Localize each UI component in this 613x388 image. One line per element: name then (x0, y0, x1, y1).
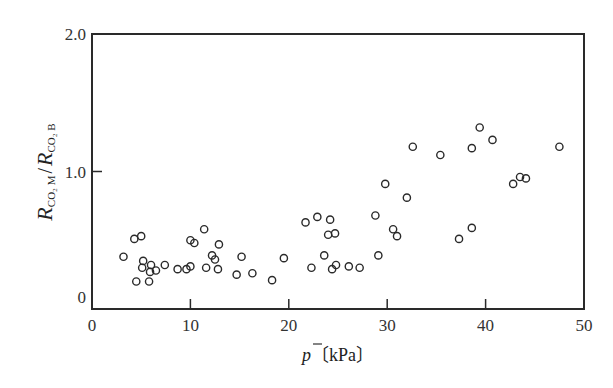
y-title-sub2: CO₂ B (45, 123, 57, 152)
x-tick-label: 10 (182, 316, 199, 335)
data-point (201, 226, 208, 233)
data-point (268, 277, 275, 284)
x-axis-ticks: 01020304050 (88, 299, 593, 335)
data-point (131, 235, 138, 242)
data-points (120, 124, 563, 285)
y-title-r1: R (32, 207, 57, 222)
y-axis-ticks: 01.02.0 (65, 25, 102, 307)
data-point (321, 252, 328, 259)
x-tick-label: 20 (280, 316, 297, 335)
y-title-slash: / (34, 168, 56, 174)
data-point (382, 180, 389, 187)
data-point (437, 151, 444, 158)
data-point (174, 266, 181, 273)
data-point (145, 278, 152, 285)
data-point (325, 231, 332, 238)
data-point (302, 219, 309, 226)
y-title-sub1: CO₂ M (45, 175, 57, 207)
data-point (327, 216, 334, 223)
data-point (161, 261, 168, 268)
y-tick-label: 0 (78, 288, 87, 307)
data-point (280, 255, 287, 262)
y-tick-label: 1.0 (65, 163, 86, 182)
data-point (138, 233, 145, 240)
data-point (120, 253, 127, 260)
data-point (409, 143, 416, 150)
data-point (356, 264, 363, 271)
data-point (556, 143, 563, 150)
x-tick-label: 0 (88, 316, 97, 335)
data-point (468, 224, 475, 231)
x-axis-symbol: p (300, 345, 311, 365)
y-title-r2: R (32, 152, 57, 167)
data-point (214, 266, 221, 273)
y-tick-label: 2.0 (65, 25, 86, 44)
data-point (133, 278, 140, 285)
data-point (139, 264, 146, 271)
svg-text:RCO₂ M/RCO₂ B: RCO₂ M/RCO₂ B (32, 123, 57, 221)
data-point (489, 136, 496, 143)
x-tick-label: 30 (379, 316, 396, 335)
data-point (510, 180, 517, 187)
x-tick-label: 50 (576, 316, 593, 335)
y-axis-title: RCO₂ M/RCO₂ B (32, 123, 57, 221)
data-point (403, 194, 410, 201)
data-point (308, 264, 315, 271)
x-axis-unit: 〔kPa〕 (311, 345, 374, 365)
data-point (390, 226, 397, 233)
data-point (455, 235, 462, 242)
data-point (203, 264, 210, 271)
x-axis-title: p〔kPa〕 (300, 345, 374, 365)
data-point (372, 212, 379, 219)
data-point (476, 124, 483, 131)
data-point (314, 213, 321, 220)
x-tick-label: 40 (477, 316, 494, 335)
data-point (468, 145, 475, 152)
data-point (215, 241, 222, 248)
data-point (238, 253, 245, 260)
data-point (375, 252, 382, 259)
data-point (345, 263, 352, 270)
data-point (233, 271, 240, 278)
scatter-chart: 01020304050 01.02.0 p〔kPa〕 RCO₂ M/RCO₂ B (0, 0, 613, 388)
data-point (393, 233, 400, 240)
data-point (249, 270, 256, 277)
data-point (331, 230, 338, 237)
data-point (140, 257, 147, 264)
